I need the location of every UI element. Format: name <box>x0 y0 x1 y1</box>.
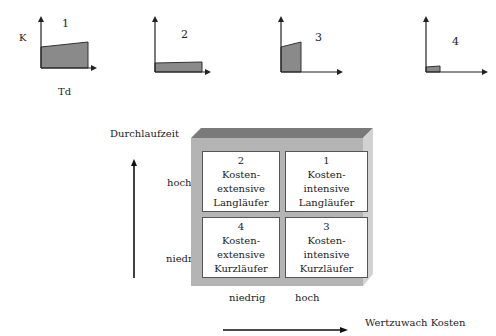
cell-number: 4 <box>203 220 279 234</box>
matrix-cell-1: 1 Kosten- intensive Langläufer <box>285 151 368 212</box>
mini-chart-4-label: 4 <box>452 35 459 48</box>
matrix-cell-2: 2 Kosten- extensive Langläufer <box>202 151 280 212</box>
cell-line1: Kosten- <box>286 168 367 182</box>
x-axis-title: Wertzuwach Kosten <box>365 317 465 328</box>
cell-line3: Kurzläufer <box>203 262 279 276</box>
mini-chart-2 <box>152 14 212 76</box>
x-level-low: niedrig <box>229 292 265 303</box>
mini-chart-2-label: 2 <box>181 28 188 41</box>
x-level-high: hoch <box>295 292 320 303</box>
cell-number: 2 <box>203 154 279 168</box>
cell-number: 3 <box>286 220 367 234</box>
cell-line2: intensive <box>286 182 367 196</box>
cell-line3: Langläufer <box>286 196 367 210</box>
matrix-cell-4: 4 Kosten- extensive Kurzläufer <box>202 217 280 278</box>
right-arrow-icon <box>222 326 350 334</box>
up-arrow-icon <box>130 158 138 280</box>
x-axis-arrow <box>222 319 350 336</box>
cost-time-graph-2 <box>152 14 212 76</box>
y-axis-title: Durchlaufzeit <box>110 128 179 139</box>
cell-line2: intensive <box>286 248 367 262</box>
cell-line1: Kosten- <box>203 168 279 182</box>
cell-line3: Kurzläufer <box>286 262 367 276</box>
cell-line2: extensive <box>203 248 279 262</box>
portfolio-matrix: 2 Kosten- extensive Langläufer 1 Kosten-… <box>191 128 373 286</box>
cell-line1: Kosten- <box>203 234 279 248</box>
cost-time-graph-3 <box>278 14 344 76</box>
k-axis-label: K <box>19 32 26 43</box>
mini-chart-3 <box>278 14 344 76</box>
cell-line2: extensive <box>203 182 279 196</box>
cell-number: 1 <box>286 154 367 168</box>
mini-chart-1-label: 1 <box>62 17 69 30</box>
matrix-cell-3: 3 Kosten- intensive Kurzläufer <box>285 217 368 278</box>
cell-line3: Langläufer <box>203 196 279 210</box>
mini-chart-3-label: 3 <box>315 31 322 44</box>
y-axis-arrow <box>130 158 138 284</box>
cell-line1: Kosten- <box>286 234 367 248</box>
y-level-high: hoch <box>167 177 192 188</box>
td-axis-label: Td <box>58 86 71 97</box>
